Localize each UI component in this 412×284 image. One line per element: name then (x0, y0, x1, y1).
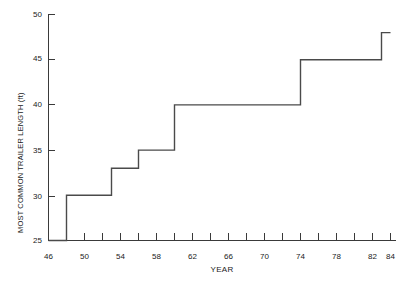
chart-figure: MOST COMMON TRAILER LENGTH (ft) 50 45 40… (0, 0, 412, 284)
y-tick-label-50: 50 (33, 10, 42, 19)
y-tick-label-35: 35 (33, 146, 42, 155)
x-axis-label: YEAR (211, 265, 234, 274)
x-tick-label-50: 50 (80, 252, 89, 261)
y-tick-label-45: 45 (33, 54, 42, 63)
step-chart-svg: MOST COMMON TRAILER LENGTH (ft) 50 45 40… (0, 0, 412, 284)
y-axis-label: MOST COMMON TRAILER LENGTH (ft) (16, 92, 25, 233)
x-tick-label-84: 84 (386, 252, 395, 261)
x-tick-label-66: 66 (224, 252, 233, 261)
y-tick-label-25: 25 (33, 236, 42, 245)
y-tick-label-30: 30 (33, 192, 42, 201)
y-tick-label-40: 40 (33, 100, 42, 109)
x-axis-ticks (49, 233, 391, 241)
data-series-step-line (49, 33, 391, 241)
x-tick-label-62: 62 (188, 252, 197, 261)
x-tick-label-46: 46 (44, 252, 53, 261)
x-tick-label-70: 70 (260, 252, 269, 261)
x-tick-label-58: 58 (152, 252, 161, 261)
x-tick-label-78: 78 (332, 252, 341, 261)
x-tick-label-54: 54 (116, 252, 125, 261)
y-axis-ticks (49, 15, 56, 241)
x-tick-label-74: 74 (296, 252, 305, 261)
x-tick-label-82: 82 (368, 252, 377, 261)
